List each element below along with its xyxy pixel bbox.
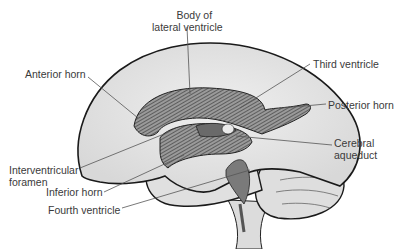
label-line-2: lateral ventricle [152,21,223,33]
label-posterior-horn: Posterior horn [328,99,394,111]
label-inferior-horn: Inferior horn [46,186,103,198]
label-line-1: Cerebral [334,137,377,149]
label-anterior-horn: Anterior horn [25,68,86,80]
label-line-1: Body of [166,9,223,21]
label-fourth-ventricle: Fourth ventricle [48,204,120,216]
label-body-lateral-ventricle: Body of lateral ventricle [166,9,223,33]
label-interventricular-foramen: Interventricular foramen [9,164,78,188]
label-line-2: aqueduct [334,149,377,161]
label-third-ventricle: Third ventricle [313,58,379,70]
label-line-1: Interventricular [9,164,78,176]
label-cerebral-aqueduct: Cerebral aqueduct [334,137,377,161]
